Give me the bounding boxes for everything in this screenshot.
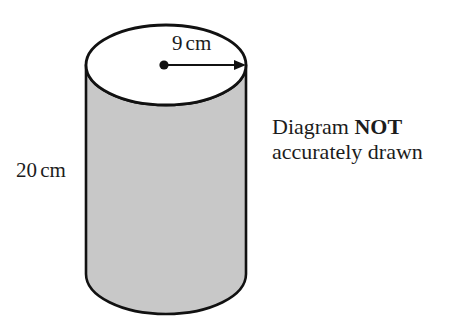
note-prefix: Diagram bbox=[272, 114, 354, 139]
note-emphasis: NOT bbox=[354, 114, 402, 139]
radius-label: 9cm bbox=[172, 33, 211, 54]
height-value: 20 bbox=[16, 158, 37, 182]
radius-value: 9 bbox=[172, 31, 183, 55]
height-label: 20cm bbox=[16, 160, 66, 181]
radius-unit: cm bbox=[186, 31, 212, 55]
height-unit: cm bbox=[40, 158, 66, 182]
note-line-2: accurately drawn bbox=[272, 139, 423, 164]
diagram-not-accurate-note: Diagram NOT accurately drawn bbox=[272, 114, 423, 164]
cylinder-diagram-figure: 9cm 20cm Diagram NOT accurately drawn bbox=[0, 0, 460, 326]
note-line-1: Diagram NOT bbox=[272, 114, 423, 139]
